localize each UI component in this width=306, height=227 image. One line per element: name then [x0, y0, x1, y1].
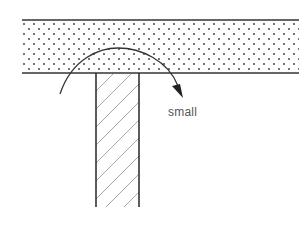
slab-fill [22, 21, 299, 72]
diagram-canvas [0, 0, 306, 227]
arrowhead-icon [172, 84, 183, 98]
column-fill [96, 74, 139, 207]
slab [22, 20, 299, 73]
column [96, 73, 139, 207]
rotation-label: small [168, 105, 197, 119]
